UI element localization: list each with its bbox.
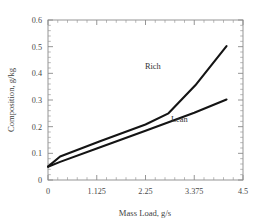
x-axis-tick-labels: 01.1252.253.3754.5 [46, 187, 248, 196]
series-curve-lean [48, 99, 227, 166]
data-series-curves [48, 46, 227, 167]
x-axis-title: Mass Load, g/s [119, 208, 172, 218]
y-tick-label: 0 [38, 176, 42, 185]
y-tick-label: 0.6 [32, 16, 42, 25]
x-tick-label: 2.25 [138, 187, 152, 196]
series-label-lean: Lean [171, 115, 189, 124]
y-tick-label: 0.1 [32, 149, 42, 158]
y-tick-label: 0.3 [32, 96, 42, 105]
y-tick-label: 0.4 [32, 69, 42, 78]
y-axis-title: Composition, g/kg [6, 67, 16, 132]
series-label-rich: Rich [145, 62, 162, 71]
series-curve-rich [48, 46, 227, 167]
y-tick-label: 0.5 [32, 43, 42, 52]
x-tick-label: 0 [46, 187, 50, 196]
y-tick-label: 0.2 [32, 123, 42, 132]
x-tick-label: 3.375 [185, 187, 203, 196]
x-tick-label: 1.125 [88, 187, 106, 196]
y-axis-tick-labels: 00.10.20.30.40.50.6 [32, 16, 42, 185]
chart-plot-area: 01.1252.253.3754.5 00.10.20.30.40.50.6 R… [0, 0, 262, 223]
chart-figure: 01.1252.253.3754.5 00.10.20.30.40.50.6 R… [0, 0, 262, 223]
x-tick-label: 4.5 [238, 187, 248, 196]
